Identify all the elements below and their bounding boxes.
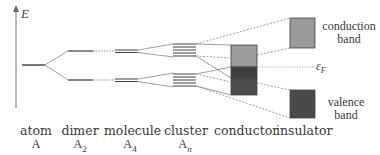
stage-formula-cluster: An bbox=[164, 137, 206, 154]
stage-formula-dimer: A2 bbox=[60, 137, 100, 154]
fermi-subscript: F bbox=[321, 66, 326, 75]
stage-formula-atom: A bbox=[18, 137, 54, 152]
molecule-levels bbox=[115, 50, 138, 82]
stage-label-insulator: insulator bbox=[276, 124, 332, 137]
stage-label-conductor: conductor bbox=[214, 124, 274, 137]
stage-formula-molecule: A4 bbox=[104, 137, 156, 154]
conduction-band-label-line2: band bbox=[320, 33, 378, 46]
conduction-band-box bbox=[290, 18, 315, 48]
dimer-levels bbox=[68, 51, 93, 80]
connectors-conductor-insulator bbox=[257, 48, 290, 90]
stage-label-dimer: dimer bbox=[60, 124, 100, 137]
conductor-band-box bbox=[231, 45, 257, 95]
connectors-dimer-molecule bbox=[93, 51, 115, 80]
valence-band-label-line2: band bbox=[320, 109, 372, 122]
energy-axis bbox=[13, 5, 19, 108]
connectors-molecule-cluster bbox=[138, 44, 173, 87]
split-lines-atom-dimer bbox=[45, 51, 68, 80]
energy-axis-label: E bbox=[21, 7, 29, 20]
conduction-band-label: conduction band bbox=[320, 20, 378, 46]
stage-label-molecule: molecule bbox=[104, 124, 156, 137]
valence-band-label: valence band bbox=[320, 96, 372, 122]
stage-label-cluster: cluster bbox=[164, 124, 206, 137]
cluster-levels bbox=[173, 44, 196, 86]
stage-label-atom: atom bbox=[18, 124, 54, 137]
valence-band-box bbox=[290, 90, 315, 118]
fermi-level-label: εF bbox=[316, 60, 326, 77]
